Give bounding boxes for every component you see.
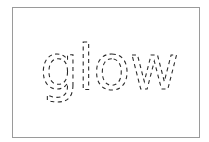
glow-word-art: glow [0, 0, 209, 142]
glow-dashed-text: glow [40, 31, 178, 104]
